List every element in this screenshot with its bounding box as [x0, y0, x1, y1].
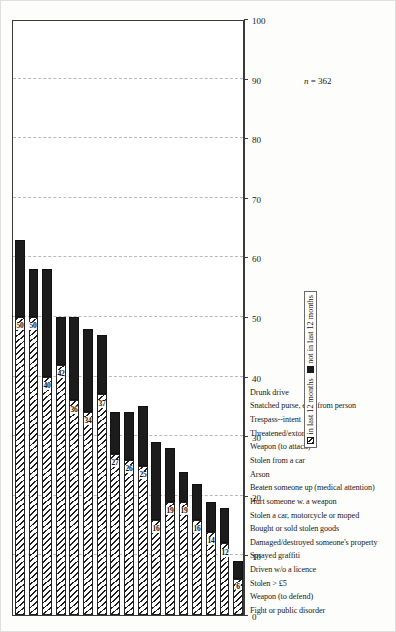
legend-swatch-hatched-icon — [307, 437, 314, 444]
category-label: Stolen from a car — [250, 456, 305, 465]
sample-size-value: = 362 — [309, 76, 332, 86]
bar-segment-in-last-12-months: 26 — [124, 460, 134, 615]
bar-value-label: 25 — [139, 471, 147, 479]
axis-tick-label-90: 90 — [252, 76, 261, 86]
bar-value-label: 37 — [98, 400, 106, 408]
bar-segment-in-last-12-months: 19 — [165, 502, 175, 615]
bar-segment-not-in-last-12-months — [151, 442, 161, 519]
bar-value-label: 40 — [43, 382, 51, 390]
bar-segment-in-last-12-months: 19 — [179, 502, 189, 615]
bar-segment-not-in-last-12-months — [179, 472, 189, 502]
bar-segment-in-last-12-months: 50 — [15, 317, 25, 615]
category-label: Beaten someone up (medical attention) — [250, 483, 375, 492]
bar: 16 — [151, 442, 161, 615]
bar: 34 — [83, 329, 93, 615]
axis-tick-20 — [244, 496, 248, 497]
sample-size-note: n = 362 — [304, 76, 332, 86]
bar-value-label: 19 — [180, 507, 188, 515]
plot-area: 505040423634372726251619191614126 — [12, 20, 244, 616]
rotated-chart-wrapper: 505040423634372726251619191614126 010203… — [1, 1, 396, 632]
category-label: Arson — [250, 470, 270, 479]
category-label: Sprayed graffiti — [250, 551, 300, 560]
bar: 40 — [42, 269, 52, 615]
axis-tick-90 — [244, 79, 248, 80]
category-label: Drunk drive — [250, 388, 289, 397]
bar-segment-not-in-last-12-months — [138, 406, 148, 466]
axis-tick-label-70: 70 — [252, 195, 261, 205]
bar-segment-not-in-last-12-months — [29, 269, 39, 317]
bar-segment-in-last-12-months: 25 — [138, 466, 148, 615]
bar-segment-not-in-last-12-months — [15, 240, 25, 317]
plot-outer: 505040423634372726251619191614126 010203… — [4, 10, 394, 624]
category-label: Stolen > £5 — [250, 579, 287, 588]
bar-segment-in-last-12-months: 50 — [29, 317, 39, 615]
bar-value-label: 50 — [29, 322, 37, 330]
bar-value-label: 6 — [236, 583, 241, 591]
bar-segment-in-last-12-months: 34 — [83, 412, 93, 615]
bar-segment-not-in-last-12-months — [97, 335, 107, 395]
axis-tick-60 — [244, 257, 248, 258]
axis-tick-0 — [244, 615, 248, 616]
bar: 42 — [56, 317, 66, 615]
category-label: Hurt someone w. a weapon — [250, 497, 336, 506]
bar: 19 — [179, 472, 189, 615]
bar-segment-not-in-last-12-months — [220, 508, 230, 544]
bar-value-label: 34 — [84, 417, 92, 425]
bar-segment-not-in-last-12-months — [233, 561, 243, 579]
bar-segment-not-in-last-12-months — [42, 269, 52, 376]
bar-value-label: 16 — [193, 525, 201, 533]
axis-tick-70 — [244, 198, 248, 199]
legend-item-in-last-12-months: in last 12 months — [306, 378, 315, 444]
axis-tick-10 — [244, 555, 248, 556]
bar-segment-in-last-12-months: 12 — [220, 543, 230, 615]
bar: 50 — [29, 269, 39, 615]
axis-tick-50 — [244, 317, 248, 318]
bars-layer: 505040423634372726251619191614126 — [13, 21, 243, 615]
bar: 26 — [124, 412, 134, 615]
bar-segment-not-in-last-12-months — [56, 317, 66, 365]
bar-segment-in-last-12-months: 40 — [42, 377, 52, 615]
bar-segment-in-last-12-months: 6 — [233, 579, 243, 615]
category-label: Fight or public disorder — [250, 606, 325, 615]
bar: 6 — [233, 561, 243, 615]
bar-segment-in-last-12-months: 27 — [110, 454, 120, 615]
axis-tick-label-40: 40 — [252, 374, 261, 384]
legend-item-not-in-last-12-months: not in last 12 months — [306, 295, 315, 373]
category-label: Stolen a car, motorcycle or moped — [250, 511, 359, 520]
bar-segment-not-in-last-12-months — [69, 317, 79, 400]
bar-value-label: 42 — [57, 370, 65, 378]
legend-swatch-solid-icon — [307, 366, 314, 373]
bar: 27 — [110, 412, 120, 615]
bar: 14 — [206, 502, 216, 615]
bar-segment-in-last-12-months: 37 — [97, 394, 107, 615]
bar-segment-in-last-12-months: 16 — [151, 520, 161, 615]
bar-value-label: 16 — [152, 525, 160, 533]
legend-label-0: in last 12 months — [306, 378, 315, 434]
bar-segment-in-last-12-months: 36 — [69, 400, 79, 615]
axis-tick-label-50: 50 — [252, 314, 261, 324]
bar-value-label: 14 — [207, 537, 215, 545]
bar-value-label: 27 — [111, 459, 119, 467]
category-label: Driven w/o a licence — [250, 565, 316, 574]
bar: 25 — [138, 406, 148, 615]
category-label: Trespass--intent — [250, 415, 301, 424]
bar-value-label: 19 — [166, 507, 174, 515]
bar-value-label: 26 — [125, 465, 133, 473]
chart-legend: in last 12 months not in last 12 months — [304, 291, 317, 448]
bar: 36 — [69, 317, 79, 615]
bar-segment-not-in-last-12-months — [206, 502, 216, 532]
bar: 50 — [15, 240, 25, 615]
axis-tick-label-60: 60 — [252, 254, 261, 264]
bar: 37 — [97, 335, 107, 615]
axis-tick-30 — [244, 436, 248, 437]
axis-tick-100 — [244, 19, 248, 20]
bar-segment-in-last-12-months: 16 — [192, 520, 202, 615]
legend-label-1: not in last 12 months — [306, 295, 315, 364]
bar: 19 — [165, 448, 175, 615]
axis-tick-label-100: 100 — [252, 16, 266, 26]
value-axis-line — [244, 20, 245, 616]
bar: 16 — [192, 484, 202, 615]
category-label: Weapon (to attack) — [250, 442, 310, 451]
category-label: Bought or sold stolen goods — [250, 524, 339, 533]
bar-segment-not-in-last-12-months — [110, 412, 120, 454]
